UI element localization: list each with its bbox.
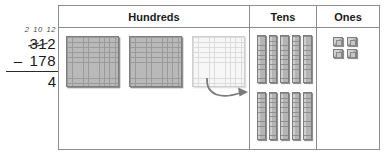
tens-rod bbox=[292, 92, 301, 140]
minuend-digit-hundreds: 3 bbox=[29, 36, 38, 51]
ones-cube bbox=[333, 49, 343, 58]
regroup-mark-ones: 12 bbox=[46, 25, 56, 34]
minus-operator: – bbox=[14, 52, 23, 69]
tens-rod bbox=[257, 92, 266, 140]
tens-rod bbox=[280, 92, 289, 140]
tens-rod bbox=[269, 35, 278, 83]
place-value-chart: Hundreds Tens Ones bbox=[58, 5, 380, 150]
subtraction-problem: 2 10 12 312 –178 4 bbox=[6, 26, 58, 92]
chart-header-row: Hundreds Tens Ones bbox=[59, 6, 379, 28]
tens-rod bbox=[269, 92, 278, 140]
header-hundreds: Hundreds bbox=[59, 6, 249, 27]
hundreds-flat-group bbox=[59, 28, 249, 87]
header-ones: Ones bbox=[316, 6, 379, 27]
regroup-mark-hundreds: 2 bbox=[25, 25, 30, 34]
ones-cube bbox=[347, 37, 357, 46]
hundreds-flat-faded bbox=[192, 36, 245, 87]
hundreds-flat bbox=[129, 36, 182, 87]
subtrahend-value: 178 bbox=[29, 52, 56, 69]
tens-rod bbox=[257, 35, 266, 83]
hundreds-flat bbox=[66, 36, 119, 87]
hundreds-column bbox=[59, 28, 249, 150]
ones-cube-group bbox=[317, 28, 379, 58]
ones-cube bbox=[333, 37, 343, 46]
minuend: 312 bbox=[6, 36, 58, 53]
tens-rod-group-top bbox=[250, 28, 316, 83]
tens-rod bbox=[303, 35, 312, 83]
chart-body-row bbox=[59, 28, 379, 150]
subtrahend-row: –178 bbox=[6, 53, 58, 72]
tens-rod-group-bottom bbox=[250, 83, 316, 140]
partial-answer: 4 bbox=[6, 72, 58, 92]
ones-column bbox=[316, 28, 379, 150]
tens-rod bbox=[303, 92, 312, 140]
tens-column bbox=[249, 28, 316, 150]
header-tens: Tens bbox=[249, 6, 316, 27]
tens-rod bbox=[292, 35, 301, 83]
ones-cube bbox=[347, 49, 357, 58]
tens-rod bbox=[280, 35, 289, 83]
minuend-digit-ones: 2 bbox=[47, 35, 56, 52]
regroup-mark-tens: 10 bbox=[33, 25, 43, 34]
minuend-digit-tens: 1 bbox=[38, 36, 47, 51]
